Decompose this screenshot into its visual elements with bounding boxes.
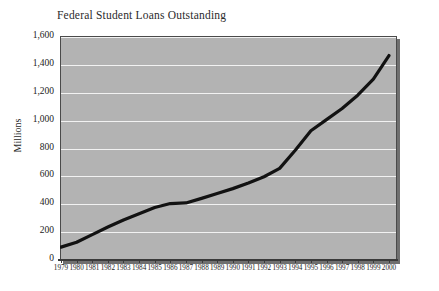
x-tick-mark: [358, 259, 359, 263]
x-tick-mark: [61, 259, 62, 263]
y-tick-label: 1,000: [2, 114, 54, 124]
x-tick-mark: [311, 259, 312, 263]
x-tick-mark: [217, 259, 218, 263]
x-tick-mark: [155, 259, 156, 263]
x-tick-mark: [248, 259, 249, 263]
x-tick-mark: [280, 259, 281, 263]
x-tick-mark: [139, 259, 140, 263]
x-tick-mark: [123, 259, 124, 263]
x-tick-mark: [389, 259, 390, 263]
x-tick-mark: [92, 259, 93, 263]
y-tick-label: 1,200: [2, 86, 54, 96]
y-tick-label: 800: [2, 142, 54, 152]
x-tick-mark: [295, 259, 296, 263]
y-tick-label: 0: [2, 253, 54, 263]
y-tick-label: 200: [2, 225, 54, 235]
x-tick-mark: [264, 259, 265, 263]
series-polyline: [61, 56, 389, 248]
x-tick-mark: [342, 259, 343, 263]
x-tick-mark: [233, 259, 234, 263]
x-tick-mark: [373, 259, 374, 263]
y-tick-label: 1,600: [2, 30, 54, 40]
data-line-series: [60, 36, 395, 259]
x-tick-mark: [170, 259, 171, 263]
x-tick-mark: [327, 259, 328, 263]
y-tick-label: 400: [2, 197, 54, 207]
y-tick-label: 600: [2, 169, 54, 179]
chart-figure: Federal Student Loans Outstanding Millio…: [0, 0, 439, 291]
y-tick-label: 1,400: [2, 58, 54, 68]
x-tick-mark: [108, 259, 109, 263]
x-axis-line: [58, 259, 398, 261]
x-axis-tick-labels: 1979198019811982198319841985198619871988…: [0, 264, 439, 282]
x-tick-mark: [186, 259, 187, 263]
x-tick-mark: [77, 259, 78, 263]
x-tick-mark: [202, 259, 203, 263]
x-tick-label: 2000: [374, 264, 404, 272]
